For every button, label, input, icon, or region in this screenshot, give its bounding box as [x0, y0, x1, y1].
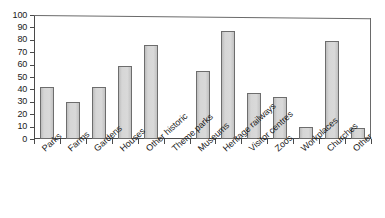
y-tick-label: 30 [17, 97, 27, 106]
y-tick-label: 60 [17, 60, 27, 69]
y-tick-label: 80 [17, 35, 27, 44]
bar [40, 87, 54, 139]
y-tick-label: 20 [17, 110, 27, 119]
y-tick-label: 10 [17, 122, 27, 131]
y-tick-label: 0 [22, 135, 27, 144]
y-tick-label: 70 [17, 48, 27, 57]
bar [92, 87, 106, 139]
bar-chart: 1009080706050403020100 ParksFarmsGardens… [0, 0, 385, 218]
x-tick-mark [34, 139, 35, 144]
y-tick-label: 100 [13, 11, 27, 20]
x-axis-labels: ParksFarmsGardensHousesOther historicThe… [34, 146, 385, 218]
y-tick-label: 90 [17, 23, 27, 32]
y-tick-label: 50 [17, 73, 27, 82]
y-tick-label: 40 [17, 85, 27, 94]
y-axis: 1009080706050403020100 [0, 11, 30, 139]
bar [66, 102, 80, 139]
bar [144, 45, 158, 139]
